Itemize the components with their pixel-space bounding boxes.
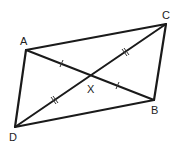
vertex-label-c: C [162,9,170,21]
side-da [15,50,26,127]
side-cb [154,24,166,100]
side-ac [26,24,166,50]
vertex-label-d: D [9,131,17,143]
vertex-label-a: A [20,35,28,47]
vertex-label-b: B [151,104,158,116]
parallelogram-diagram: A C B D X [0,0,178,151]
intersection-label-x: X [87,83,95,95]
